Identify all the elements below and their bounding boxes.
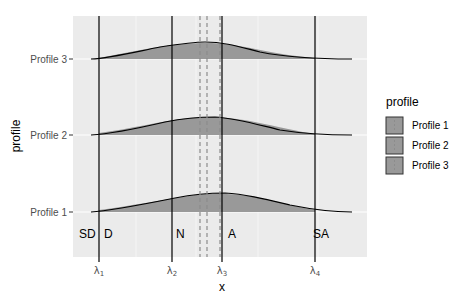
y-axis: Profile 3 Profile 2 Profile 1 profile — [9, 54, 73, 218]
x-axis: λ1 λ2 λ3 λ4 x — [94, 265, 321, 294]
y-tick-profile-2: Profile 2 — [30, 130, 67, 141]
region-label-sa: SA — [313, 227, 329, 241]
legend-item-profile-1: Profile 1 — [386, 117, 449, 134]
y-tick-profile-1: Profile 1 — [30, 207, 67, 218]
legend-item-profile-2: Profile 2 — [386, 137, 449, 154]
legend-label-profile-1: Profile 1 — [412, 120, 449, 131]
ridgeline-chart: SD D N A SA Profile 3 Profile 2 Profile … — [0, 0, 463, 306]
y-axis-title: profile — [9, 119, 23, 152]
region-label-a: A — [228, 227, 236, 241]
region-label-d: D — [104, 227, 113, 241]
x-tick-lambda-4: λ4 — [310, 265, 321, 278]
region-label-n: N — [176, 227, 185, 241]
legend-label-profile-2: Profile 2 — [412, 140, 449, 151]
x-tick-lambda-2: λ2 — [167, 265, 177, 278]
legend-title: profile — [386, 95, 419, 109]
y-tick-profile-3: Profile 3 — [30, 54, 67, 65]
legend-item-profile-3: Profile 3 — [386, 157, 449, 174]
x-tick-lambda-3: λ3 — [217, 265, 227, 278]
region-label-sd: SD — [79, 227, 96, 241]
x-axis-title: x — [219, 280, 225, 294]
x-tick-lambda-1: λ1 — [94, 265, 104, 278]
legend-label-profile-3: Profile 3 — [412, 160, 449, 171]
legend: profile Profile 1 Profile 2 Profile 3 — [386, 95, 449, 174]
